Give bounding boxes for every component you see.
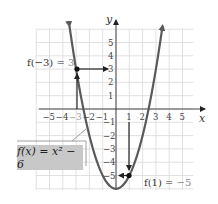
function-label-text: f(x) = x² − 6	[17, 145, 83, 171]
x-axis-label: x	[199, 113, 205, 124]
x-tick-label: 3	[153, 113, 158, 122]
y-tick-label: 5	[108, 39, 113, 48]
annotation-f-1: f(1) = −5	[144, 178, 191, 188]
x-tick-label: 1	[126, 113, 131, 122]
x-tick-label: −5	[43, 113, 56, 122]
annotation-f-neg3: f(−3) = 3	[27, 58, 74, 68]
y-tick-label: 4	[108, 52, 113, 61]
y-tick-label: −1	[103, 118, 116, 127]
x-tick-label: 2	[140, 113, 145, 122]
point-f-1	[119, 122, 132, 178]
y-tick-label: 1	[108, 92, 113, 101]
annotation-f-neg3-value: 3	[68, 57, 74, 68]
y-tick-label: 3	[108, 65, 113, 74]
x-tick-label: 4	[166, 113, 171, 122]
annotation-f-1-lhs: f(1) =	[144, 177, 177, 188]
x-tick-label: −4	[56, 113, 69, 122]
y-axis-label: y	[106, 14, 112, 25]
y-tick-label: −2	[103, 132, 116, 141]
annotation-f-neg3-lhs: f(−3) =	[27, 57, 68, 68]
y-tick-label: 2	[108, 78, 113, 87]
y-tick-label: −5	[103, 172, 116, 181]
function-label-box: f(x) = x² − 6	[17, 145, 83, 170]
y-tick-label: −3	[103, 145, 116, 154]
x-tick-label: −2	[82, 113, 95, 122]
x-tick-label: −3	[69, 113, 82, 122]
label-pointer	[72, 129, 86, 141]
y-tick-label: −4	[103, 158, 116, 167]
x-tick-label: 5	[180, 113, 185, 122]
annotation-f-1-value: −5	[177, 177, 192, 188]
